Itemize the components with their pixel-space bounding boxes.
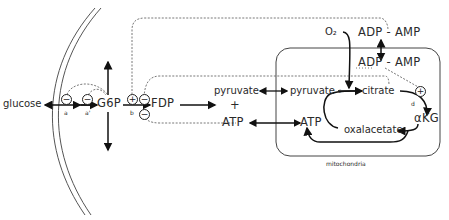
node-citrate: citrate bbox=[362, 86, 395, 96]
enzyme-label-d: d bbox=[411, 101, 415, 107]
node-pyruvate-mito: pyruvate bbox=[290, 86, 335, 96]
node-oxalacetate: oxalacetate bbox=[344, 125, 403, 135]
enzyme-label-a: a bbox=[64, 110, 68, 116]
node-plus: + bbox=[230, 100, 240, 112]
node-g6p: G6P bbox=[97, 98, 121, 110]
enzyme-label-b: b bbox=[130, 110, 134, 116]
node-o2: O₂ bbox=[325, 27, 337, 37]
node-pyruvate-cytosol: pyruvate bbox=[214, 86, 259, 96]
node-adp-amp-outer: ADP - AMP bbox=[358, 27, 421, 39]
node-glucose: glucose bbox=[3, 99, 41, 109]
activation-sign-d: + bbox=[415, 86, 426, 97]
inhibition-sign-a: − bbox=[61, 94, 72, 105]
node-atp-cytosol: ATP bbox=[222, 117, 244, 129]
activation-sign-b: + bbox=[127, 94, 138, 105]
inhibition-sign-b-lower: − bbox=[139, 109, 150, 120]
node-alpha-kg: αKG bbox=[414, 113, 439, 125]
metabolic-pathway-diagram: glucose G6P FDP pyruvate + ATP O₂ ADP - … bbox=[0, 0, 449, 220]
node-fdp: FDP bbox=[151, 98, 174, 110]
node-atp-mito: ATP bbox=[300, 117, 322, 129]
inhibition-sign-a-prime: − bbox=[82, 94, 93, 105]
compartment-label-mitochondria: mitochondria bbox=[326, 161, 366, 167]
inhibition-sign-b-upper: − bbox=[139, 94, 150, 105]
node-adp-amp-inner: ADP - AMP bbox=[358, 57, 421, 69]
enzyme-label-c: c bbox=[338, 88, 341, 94]
enzyme-label-a-prime: a' bbox=[85, 110, 90, 116]
